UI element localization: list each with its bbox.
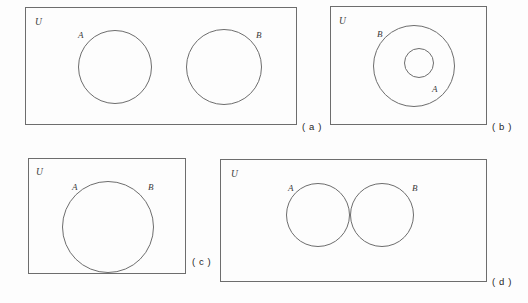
set-label-b-outer: B xyxy=(377,30,383,39)
set-label-b-equal: B xyxy=(148,183,154,192)
venn-diagram-figure: U A B ( a ) U B A ( b ) U A B ( c ) U A … xyxy=(0,0,528,303)
set-label-b-overlap: B xyxy=(412,184,418,193)
universe-label-a: U xyxy=(35,18,42,28)
set-label-a-equal: A xyxy=(72,183,78,192)
universe-label-d: U xyxy=(231,170,238,180)
set-circle-a-inner xyxy=(404,48,434,78)
panel-d: U A B xyxy=(220,159,487,282)
universe-label-b: U xyxy=(339,17,346,27)
panel-b: U B A xyxy=(330,6,487,125)
panel-c: U A B xyxy=(28,158,186,274)
set-circle-ab-equal xyxy=(62,181,154,273)
set-label-a: A xyxy=(78,31,84,40)
set-label-b: B xyxy=(256,31,262,40)
panel-a: U A B xyxy=(25,7,297,125)
set-label-a-inner: A xyxy=(432,85,438,94)
set-label-a-overlap: A xyxy=(288,184,294,193)
set-circle-b xyxy=(186,29,262,105)
panel-caption-c: ( c ) xyxy=(192,257,211,267)
panel-caption-d: ( d ) xyxy=(492,277,512,287)
universe-label-c: U xyxy=(36,168,43,178)
panel-caption-a: ( a ) xyxy=(302,122,322,132)
panel-caption-b: ( b ) xyxy=(492,122,512,132)
set-circle-a xyxy=(78,30,152,104)
set-circle-a-overlap xyxy=(286,183,350,247)
set-circle-b-overlap xyxy=(350,183,414,247)
